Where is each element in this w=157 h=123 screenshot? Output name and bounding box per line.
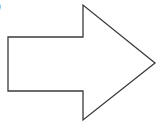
right-arrow-shape (8, 5, 155, 120)
diagram-canvas: ) (0, 0, 157, 123)
right-arrow-icon (0, 0, 157, 123)
